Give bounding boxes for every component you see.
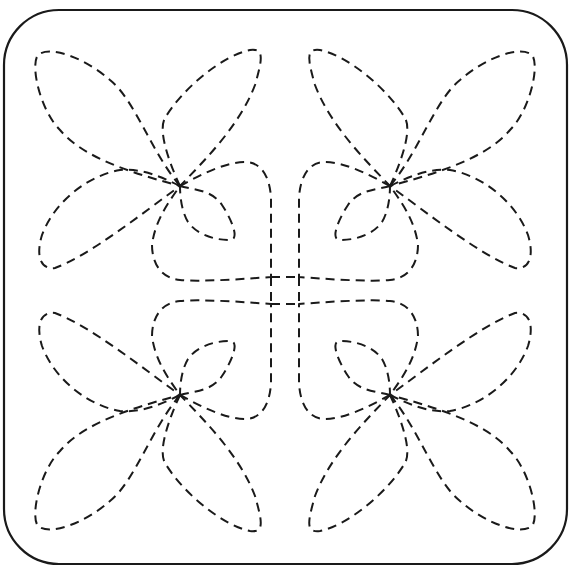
- flower-bottom-left: [35, 300, 271, 531]
- center-square: [271, 277, 299, 304]
- block-border: [4, 10, 567, 564]
- flower-top-right: [299, 50, 535, 281]
- flower-top-left: [35, 50, 271, 281]
- quilting-pattern: [0, 0, 580, 569]
- flower-bottom-right: [299, 300, 535, 531]
